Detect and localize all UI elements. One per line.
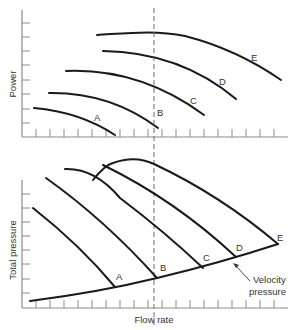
pressure-label-e: E	[277, 232, 283, 243]
annotation-arrow-icon	[235, 265, 250, 281]
power-curve-d	[103, 51, 236, 99]
velocity-pressure-annotation: Velocity pressure	[233, 263, 286, 297]
pressure-y-ticks	[22, 194, 30, 293]
power-curve-b	[49, 93, 158, 128]
pressure-label-c: C	[203, 252, 210, 263]
power-label-e: E	[251, 52, 257, 63]
power-label-a: A	[94, 112, 101, 123]
pressure-label-a: A	[116, 271, 123, 282]
power-axis-label: Power	[7, 71, 18, 98]
pressure-panel: Total pressure Flow rate A B C D E Veloc…	[7, 159, 288, 325]
power-y-ticks	[22, 23, 30, 123]
pressure-axis-label: Total pressure	[7, 220, 18, 280]
pressure-label-b: B	[160, 262, 166, 273]
fan-characteristic-diagram: Power A B C D E	[0, 0, 292, 330]
arrow-head-icon	[233, 263, 239, 268]
power-label-b: B	[157, 107, 163, 118]
pressure-x-ticks	[36, 300, 274, 308]
power-panel: Power A B C D E	[7, 10, 288, 137]
annotation-line2: pressure	[249, 286, 286, 297]
pressure-curve-e	[93, 159, 278, 244]
pressure-curve-b	[46, 178, 157, 278]
power-label-c: C	[190, 95, 197, 106]
flow-rate-axis-label: Flow rate	[134, 314, 173, 325]
power-x-ticks	[36, 129, 274, 137]
pressure-curve-a	[33, 208, 115, 287]
diagram-canvas: Power A B C D E	[0, 0, 292, 330]
annotation-line1: Velocity	[253, 274, 286, 285]
power-label-d: D	[219, 76, 226, 87]
power-curve-c	[66, 71, 204, 115]
power-curve-a	[34, 108, 115, 135]
pressure-label-d: D	[236, 242, 243, 253]
